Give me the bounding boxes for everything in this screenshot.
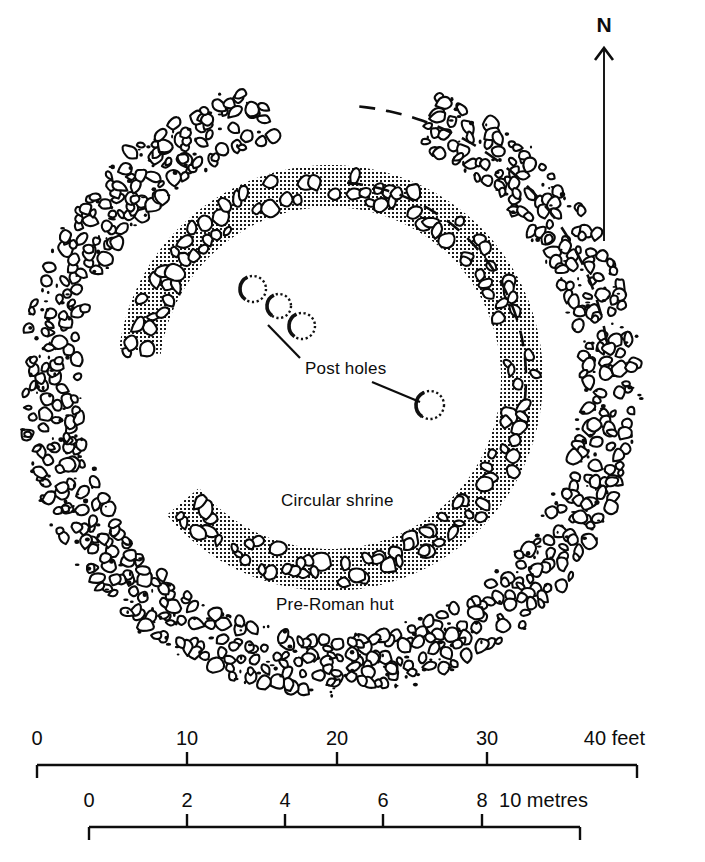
gravel-speck xyxy=(544,583,547,587)
gravel-speck xyxy=(110,529,112,533)
gravel-speck xyxy=(65,414,69,417)
stone-outline xyxy=(357,676,366,686)
gravel-speck xyxy=(53,372,56,377)
gravel-speck xyxy=(266,661,270,663)
stone-outline xyxy=(76,233,87,245)
stone-outline xyxy=(506,449,520,463)
stone-outline xyxy=(527,575,533,584)
gravel-speck xyxy=(630,440,633,444)
gravel-speck xyxy=(611,322,614,325)
scale-tick-label: 40 feet xyxy=(584,727,646,749)
gravel-speck xyxy=(74,540,79,544)
gravel-speck xyxy=(47,291,50,294)
gravel-speck xyxy=(444,627,447,631)
scale-tick-label: 4 xyxy=(279,789,290,811)
gravel-speck xyxy=(624,341,628,344)
gravel-speck xyxy=(133,224,137,226)
stone-outline xyxy=(338,578,351,588)
stone-outline xyxy=(582,534,597,549)
stone-outline xyxy=(42,328,49,337)
gravel-speck xyxy=(92,467,97,472)
gravel-speck xyxy=(454,107,459,111)
gravel-speck xyxy=(36,391,38,394)
stone-outline xyxy=(419,652,427,663)
stone-outline xyxy=(613,449,624,462)
stone-outline xyxy=(151,632,161,639)
gravel-speck xyxy=(59,418,64,422)
stone-outline xyxy=(256,136,266,146)
gravel-speck xyxy=(29,373,33,378)
gravel-speck xyxy=(585,302,590,304)
stone-outline xyxy=(30,356,37,363)
scale-tick-label: 10 metres xyxy=(499,789,588,811)
stone-outline xyxy=(123,145,138,158)
stone-outline xyxy=(89,573,105,583)
stone-outline xyxy=(218,647,227,658)
stone-outline xyxy=(618,470,623,476)
stone-outline xyxy=(192,157,202,168)
gravel-speck xyxy=(218,93,221,96)
gravel-speck xyxy=(448,667,452,670)
gravel-speck xyxy=(594,408,596,411)
stone-outline xyxy=(610,410,615,416)
gravel-speck xyxy=(497,617,500,620)
gravel-speck xyxy=(110,165,115,170)
gravel-speck xyxy=(92,270,96,273)
scale-tick-label: 30 xyxy=(476,727,498,749)
gravel-speck xyxy=(413,683,418,687)
gravel-speck xyxy=(226,614,231,617)
gravel-speck xyxy=(267,625,270,628)
stone-outline xyxy=(407,669,416,677)
scale-tick-label: 20 xyxy=(326,727,348,749)
stone-outline xyxy=(476,477,493,492)
gravel-speck xyxy=(20,428,25,431)
gravel-speck xyxy=(130,223,133,227)
gravel-speck xyxy=(412,632,417,636)
gravel-speck xyxy=(86,566,91,570)
gravel-speck xyxy=(385,673,389,677)
stone-outline xyxy=(56,527,63,534)
gravel-speck xyxy=(39,354,41,358)
gravel-speck xyxy=(330,694,333,698)
gravel-speck xyxy=(350,669,354,672)
stone-outline xyxy=(261,664,269,674)
stone-outline xyxy=(45,321,53,328)
gravel-speck xyxy=(612,447,614,450)
stone-outline xyxy=(112,181,127,190)
stone-outline xyxy=(137,143,145,148)
gravel-speck xyxy=(49,523,53,526)
gravel-speck xyxy=(60,301,65,304)
stone-outline xyxy=(493,132,503,146)
stone-outline xyxy=(266,129,281,143)
stone-outline xyxy=(228,123,239,133)
gravel-speck xyxy=(587,455,590,458)
gravel-speck xyxy=(184,163,188,167)
gravel-speck xyxy=(283,630,288,634)
gravel-speck xyxy=(358,633,360,638)
gravel-speck xyxy=(74,434,78,438)
stone-outline xyxy=(331,670,341,677)
stone-outline xyxy=(516,561,526,569)
gravel-speck xyxy=(263,626,265,629)
gravel-speck xyxy=(469,121,474,126)
gravel-speck xyxy=(531,238,534,242)
stone-outline xyxy=(51,335,67,349)
gravel-speck xyxy=(80,437,83,441)
stone-outline xyxy=(488,449,496,458)
gravel-speck xyxy=(582,537,587,540)
stone-outline xyxy=(425,633,436,642)
gravel-speck xyxy=(206,617,211,620)
stone-outline xyxy=(586,343,593,349)
gravel-speck xyxy=(457,115,462,118)
gravel-speck xyxy=(192,153,196,156)
gravel-speck xyxy=(202,604,205,607)
stone-outline xyxy=(100,553,111,563)
gravel-speck xyxy=(146,145,150,148)
gravel-speck xyxy=(601,404,606,408)
stone-outline xyxy=(569,572,574,581)
stone-outline xyxy=(258,103,269,111)
gravel-speck xyxy=(75,275,78,277)
stone-outline xyxy=(239,186,248,201)
gravel-speck xyxy=(151,589,153,593)
gravel-speck xyxy=(148,159,151,162)
